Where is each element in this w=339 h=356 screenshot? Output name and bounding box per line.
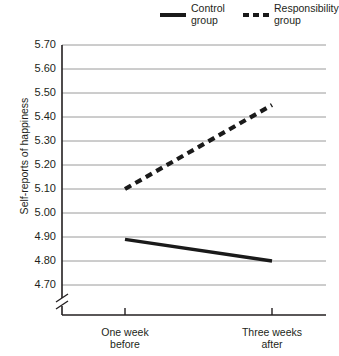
series-line-control-group: [125, 239, 272, 261]
x-tick1-line1: One week: [101, 326, 148, 338]
x-axis-tick-label-three-weeks-after: Three weeks after: [217, 326, 327, 350]
x-tick2-line1: Three weeks: [242, 326, 302, 338]
axis-break-symbol: [56, 293, 68, 315]
series-line-responsibility-group: [125, 105, 272, 189]
x-tick1-line2: before: [70, 338, 180, 350]
x-axis-tick-label-one-week-before: One week before: [70, 326, 180, 350]
x-tick2-line2: after: [217, 338, 327, 350]
